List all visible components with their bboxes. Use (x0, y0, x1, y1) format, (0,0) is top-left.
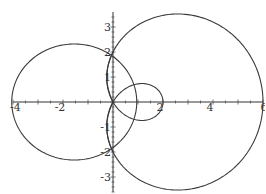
y-tick-label: 3 (104, 21, 111, 34)
x-tick-label: 4 (207, 101, 214, 114)
y-tick-label: -2 (100, 146, 111, 159)
y-tick-label: 1 (104, 71, 111, 84)
y-tick-label: 2 (104, 46, 111, 59)
x-tick-label: 6 (261, 101, 266, 114)
axes (13, 12, 263, 192)
x-tick-label: -4 (10, 101, 21, 114)
x-tick-label: 2 (157, 101, 164, 114)
polar-plot: -4-2246321-1-2-3 (0, 0, 265, 194)
y-tick-label: -1 (100, 121, 111, 134)
x-tick-label: -2 (55, 101, 66, 114)
y-tick-label: -3 (100, 171, 111, 184)
